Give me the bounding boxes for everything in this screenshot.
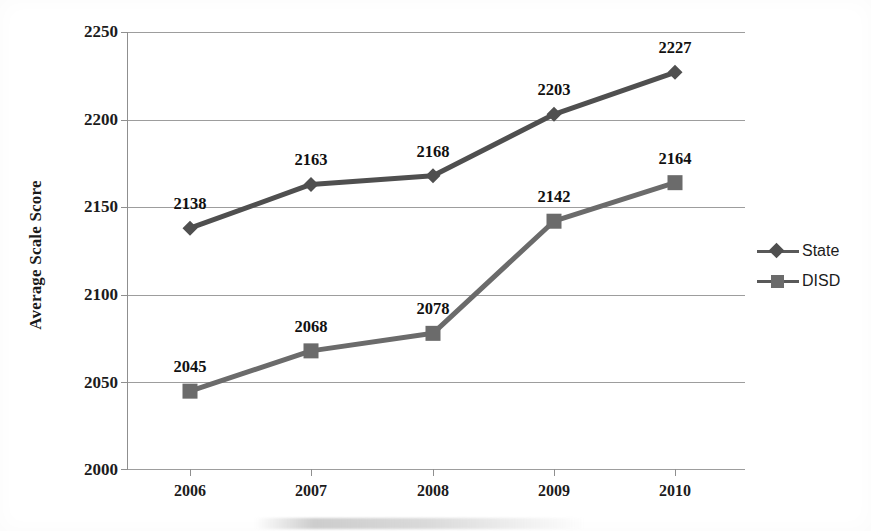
- legend-item-disd[interactable]: DISD: [757, 266, 867, 296]
- chart-legend: State DISD: [757, 236, 867, 296]
- data-point-disd-2007[interactable]: [304, 343, 319, 358]
- data-point-disd-2010[interactable]: [668, 175, 683, 190]
- y-tick-label-2250: 2250: [54, 22, 118, 42]
- data-point-state-2010[interactable]: [668, 65, 683, 80]
- y-axis-tick-labels: 2250 2200 2150 2100 2050 2000: [52, 0, 118, 531]
- y-tick-label-2050: 2050: [54, 373, 118, 393]
- x-tick-label-2010: 2010: [630, 482, 720, 500]
- line-chart: Average Scale Score 2250 2200 2150 2100 …: [0, 0, 871, 531]
- legend-item-state[interactable]: State: [757, 236, 867, 266]
- data-point-disd-2009[interactable]: [547, 214, 562, 229]
- data-point-disd-2006[interactable]: [183, 384, 198, 399]
- diamond-marker-icon: [757, 244, 799, 258]
- data-label-state-2009: 2203: [538, 80, 571, 100]
- data-label-disd-2006: 2045: [174, 357, 207, 377]
- data-point-state-2007[interactable]: [304, 177, 319, 192]
- data-label-state-2010: 2227: [659, 38, 692, 58]
- scan-artifact: [255, 518, 585, 529]
- data-label-disd-2008: 2078: [417, 299, 450, 319]
- legend-label-state: State: [802, 242, 839, 260]
- x-tick-mark-2006: [190, 469, 191, 476]
- x-tick-mark-2009: [554, 469, 555, 476]
- data-label-disd-2010: 2164: [659, 149, 692, 169]
- series-lines: [127, 32, 745, 470]
- data-point-disd-2008[interactable]: [426, 326, 441, 341]
- y-tick-label-2200: 2200: [54, 110, 118, 130]
- y-tick-label-2000: 2000: [54, 460, 118, 480]
- legend-label-disd: DISD: [802, 272, 840, 290]
- data-label-state-2007: 2163: [295, 150, 328, 170]
- data-label-disd-2009: 2142: [538, 187, 571, 207]
- x-tick-mark-2007: [311, 469, 312, 476]
- data-label-disd-2007: 2068: [295, 317, 328, 337]
- x-tick-label-2006: 2006: [145, 482, 235, 500]
- data-point-state-2006[interactable]: [183, 221, 198, 236]
- data-label-state-2006: 2138: [174, 194, 207, 214]
- x-tick-mark-2010: [675, 469, 676, 476]
- series-line-disd: [190, 183, 675, 391]
- y-tick-label-2100: 2100: [54, 285, 118, 305]
- y-tick-label-2150: 2150: [54, 197, 118, 217]
- square-marker-icon: [757, 274, 799, 288]
- x-tick-label-2008: 2008: [388, 482, 478, 500]
- x-tick-mark-2008: [433, 469, 434, 476]
- y-axis-title: Average Scale Score: [26, 155, 46, 355]
- x-tick-label-2009: 2009: [509, 482, 599, 500]
- data-label-state-2008: 2168: [417, 142, 450, 162]
- x-tick-label-2007: 2007: [266, 482, 356, 500]
- plot-area: 2138216321682203222720452068207821422164: [127, 32, 745, 470]
